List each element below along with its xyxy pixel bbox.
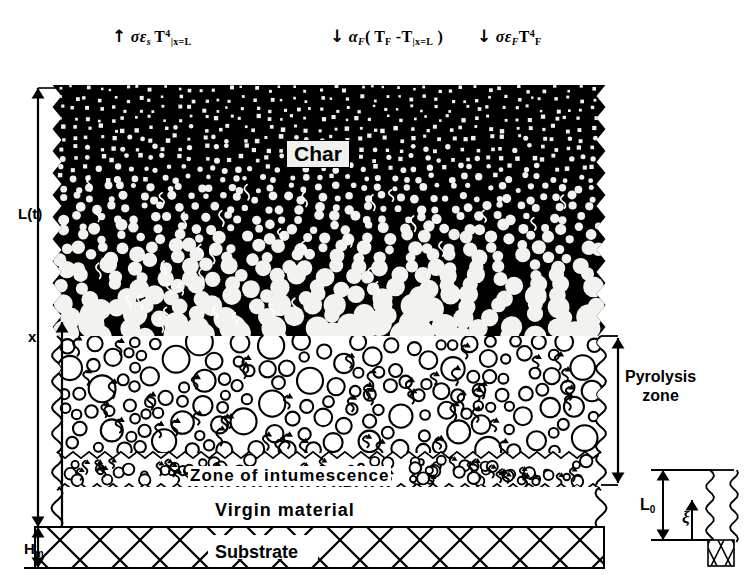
- char-pore: [413, 88, 416, 91]
- arrow-up-icon: ↑: [112, 26, 127, 46]
- char-pore: [116, 181, 124, 189]
- char-pore: [466, 105, 469, 108]
- char-pore: [146, 242, 158, 254]
- char-pore: [88, 223, 100, 235]
- char-pore: [148, 115, 151, 118]
- char-pore: [76, 97, 80, 101]
- char-pore: [275, 167, 281, 173]
- char-pore: [233, 215, 241, 223]
- pyrolysis-bubble: [499, 374, 509, 384]
- char-pore: [522, 172, 528, 178]
- char-pore: [188, 193, 194, 199]
- char-pore: [163, 175, 169, 181]
- char-pore: [200, 89, 203, 92]
- pyrolysis-bubble: [130, 338, 140, 348]
- char-pore: [373, 105, 375, 107]
- pyrolysis-bubble: [73, 388, 85, 400]
- char-pore: [526, 104, 529, 107]
- char-pore: [241, 107, 244, 110]
- char-pore: [435, 105, 438, 108]
- char-pore: [210, 165, 215, 170]
- char-pore: [384, 233, 396, 245]
- char-pore: [163, 119, 166, 122]
- pyrolysis-bubble: [363, 415, 376, 428]
- alpha-F: αF: [349, 28, 365, 45]
- pyrolysis-bubble: [141, 409, 150, 418]
- char-pore: [152, 168, 157, 173]
- pyrolysis-bubble: [85, 405, 97, 417]
- char-pore: [217, 99, 220, 102]
- char-pore: [557, 110, 561, 114]
- pyrolysis-bubble: [389, 364, 402, 377]
- char-pore: [588, 178, 593, 183]
- bracket-label-pyrolysis-zone: Pyrolysis zone: [625, 367, 696, 405]
- pyrolysis-bubble: [231, 408, 257, 434]
- char-pore: [399, 119, 402, 122]
- char-pore: [117, 243, 129, 255]
- pyrolysis-bubble: [350, 386, 361, 397]
- char-pore: [225, 106, 228, 109]
- pyrolysis-bubble: [353, 368, 363, 378]
- char-pore: [162, 212, 171, 221]
- char-pore: [101, 135, 104, 138]
- char-pore: [554, 148, 558, 152]
- pyrolysis-bubble: [564, 397, 584, 417]
- char-pore: [173, 125, 178, 130]
- char-pore: [98, 242, 108, 252]
- char-pore: [502, 194, 511, 203]
- char-pore: [567, 90, 570, 93]
- char-pore: [265, 220, 275, 230]
- intumescence-bubble: [370, 457, 379, 466]
- char-pore: [247, 166, 252, 171]
- char-pore: [231, 115, 234, 118]
- pyrolysis-bubble: [153, 408, 163, 418]
- convection-expression: ( TF -T|x=L ): [365, 28, 443, 45]
- char-pore: [99, 123, 103, 127]
- pyrolysis-bubble: [541, 398, 560, 417]
- char-pore: [568, 109, 571, 112]
- char-pore: [586, 229, 597, 240]
- char-pore: [100, 256, 118, 274]
- char-pore: [178, 105, 182, 109]
- char-pore: [135, 116, 138, 119]
- char-pore: [117, 231, 125, 239]
- char-pore: [342, 89, 346, 93]
- char-pore: [439, 224, 449, 234]
- char-pore: [499, 182, 507, 190]
- char-pore: [129, 166, 134, 171]
- char-pore: [351, 183, 357, 189]
- char-pore: [287, 265, 306, 284]
- char-pore: [443, 248, 455, 260]
- char-pore: [96, 166, 102, 172]
- char-pore: [204, 136, 208, 140]
- char-pore: [466, 164, 472, 170]
- char-pore: [148, 155, 153, 160]
- pyrolysis-bubble: [129, 381, 139, 391]
- char-pore: [517, 85, 520, 88]
- pyrolysis-bubble: [336, 418, 352, 434]
- char-pore: [220, 177, 225, 182]
- char-pore: [255, 139, 260, 144]
- char-pore: [240, 86, 242, 88]
- char-pore: [242, 230, 253, 241]
- char-pore: [371, 260, 388, 277]
- char-pore: [319, 193, 328, 202]
- char-pore: [543, 137, 547, 141]
- char-pore: [148, 139, 152, 143]
- char-pore: [303, 90, 306, 93]
- char-pore: [70, 176, 77, 183]
- char-pore: [518, 98, 522, 102]
- char-pore: [410, 104, 413, 107]
- char-pore: [252, 216, 261, 225]
- pyrolysis-bubble: [505, 402, 514, 411]
- char-pore: [361, 271, 374, 284]
- char-pore: [500, 129, 504, 133]
- char-pore: [132, 176, 139, 183]
- char-pore: [319, 243, 328, 252]
- char-pore: [398, 95, 401, 98]
- pyrolysis-bubble: [152, 429, 176, 453]
- char-pore: [268, 117, 272, 121]
- char-pore: [448, 229, 459, 240]
- char-pore: [541, 145, 545, 149]
- char-pore: [320, 108, 323, 111]
